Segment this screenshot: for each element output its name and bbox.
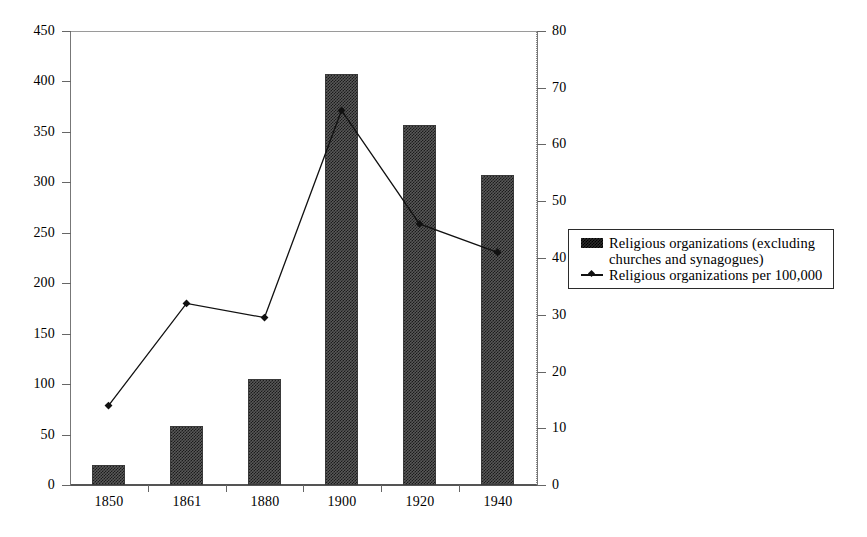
x-tick-label-1880: 1880 — [226, 494, 304, 510]
bar-1861 — [170, 426, 203, 485]
legend-label-bars-line2: churches and synagogues) — [609, 251, 815, 267]
chart-figure: 450 400 350 300 250 200 150 100 50 0 80 … — [0, 0, 867, 537]
legend-entry-bars: Religious organizations (excluding churc… — [575, 235, 827, 267]
legend-label-bars-line1: Religious organizations (excluding — [609, 235, 815, 251]
x-tick-label-1850: 1850 — [70, 494, 148, 510]
right-tick-label: 60 — [552, 137, 566, 151]
x-tick-label-1861: 1861 — [148, 494, 226, 510]
left-tick-label: 0 — [48, 478, 55, 492]
chart-legend: Religious organizations (excluding churc… — [568, 229, 834, 289]
right-tick-label: 70 — [552, 81, 566, 95]
left-axis-line — [70, 31, 71, 485]
left-tick-label: 50 — [41, 428, 55, 442]
left-tick-label: 100 — [33, 377, 55, 391]
bar-1940 — [481, 175, 514, 485]
right-tick-label: 0 — [552, 478, 559, 492]
line-marker-swatch-icon — [581, 270, 603, 280]
right-tick-label: 80 — [552, 24, 566, 38]
left-tick-label: 400 — [33, 74, 55, 88]
right-tick-label: 30 — [552, 308, 566, 322]
top-frame-line — [70, 31, 538, 32]
bar-1850 — [92, 465, 125, 485]
x-axis-line — [70, 485, 538, 486]
left-tick-label: 450 — [33, 24, 55, 38]
x-tick-label-1920: 1920 — [381, 494, 459, 510]
left-tick-label: 300 — [33, 175, 55, 189]
left-tick-label: 150 — [33, 327, 55, 341]
right-tick-label: 40 — [552, 251, 566, 265]
left-tick-label: 350 — [33, 125, 55, 139]
left-tick-label: 250 — [33, 226, 55, 240]
plot-area — [70, 31, 537, 485]
left-tick-label: 200 — [33, 276, 55, 290]
legend-label-bars: Religious organizations (excluding churc… — [609, 235, 815, 267]
legend-label-line: Religious organizations per 100,000 — [609, 267, 822, 283]
bar-swatch-icon — [581, 238, 603, 248]
x-tick-label-1940: 1940 — [459, 494, 537, 510]
legend-entry-line: Religious organizations per 100,000 — [575, 267, 827, 283]
right-tick-label: 10 — [552, 421, 566, 435]
bar-1920 — [403, 125, 436, 485]
x-tick-label-1900: 1900 — [303, 494, 381, 510]
right-tick-label: 50 — [552, 194, 566, 208]
bar-1880 — [248, 379, 281, 485]
right-tick-label: 20 — [552, 365, 566, 379]
bar-1900 — [325, 74, 358, 485]
